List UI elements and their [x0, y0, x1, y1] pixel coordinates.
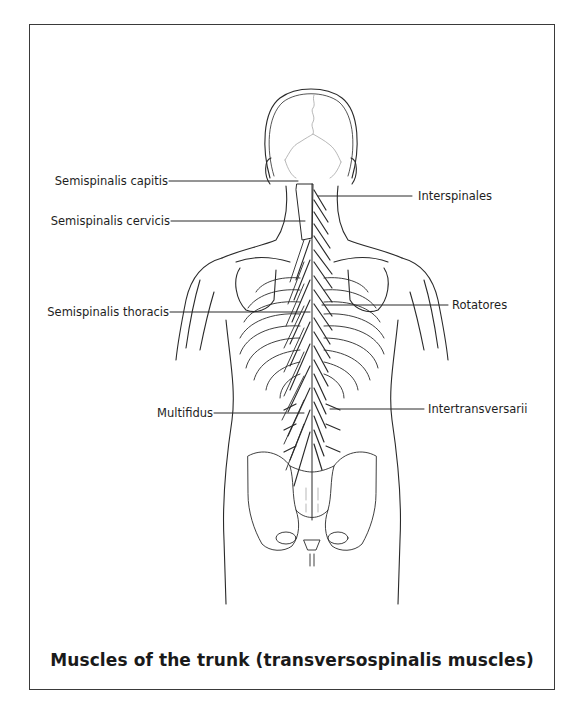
leader-lines: [169, 181, 448, 413]
label-rotatores: Rotatores: [452, 298, 507, 312]
label-semispinalis-thoracis: Semispinalis thoracis: [30, 305, 169, 319]
figure-caption: Muscles of the trunk (transversospinalis…: [29, 650, 555, 670]
label-semispinalis-cervicis: Semispinalis cervicis: [30, 214, 170, 228]
label-interspinales: Interspinales: [418, 189, 492, 203]
back-anatomy-illustration: [0, 0, 581, 720]
label-intertransversarii: Intertransversarii: [428, 402, 527, 416]
head-outline: [265, 89, 357, 184]
label-multifidus: Multifidus: [120, 406, 213, 420]
label-semispinalis-capitis: Semispinalis capitis: [40, 174, 168, 188]
